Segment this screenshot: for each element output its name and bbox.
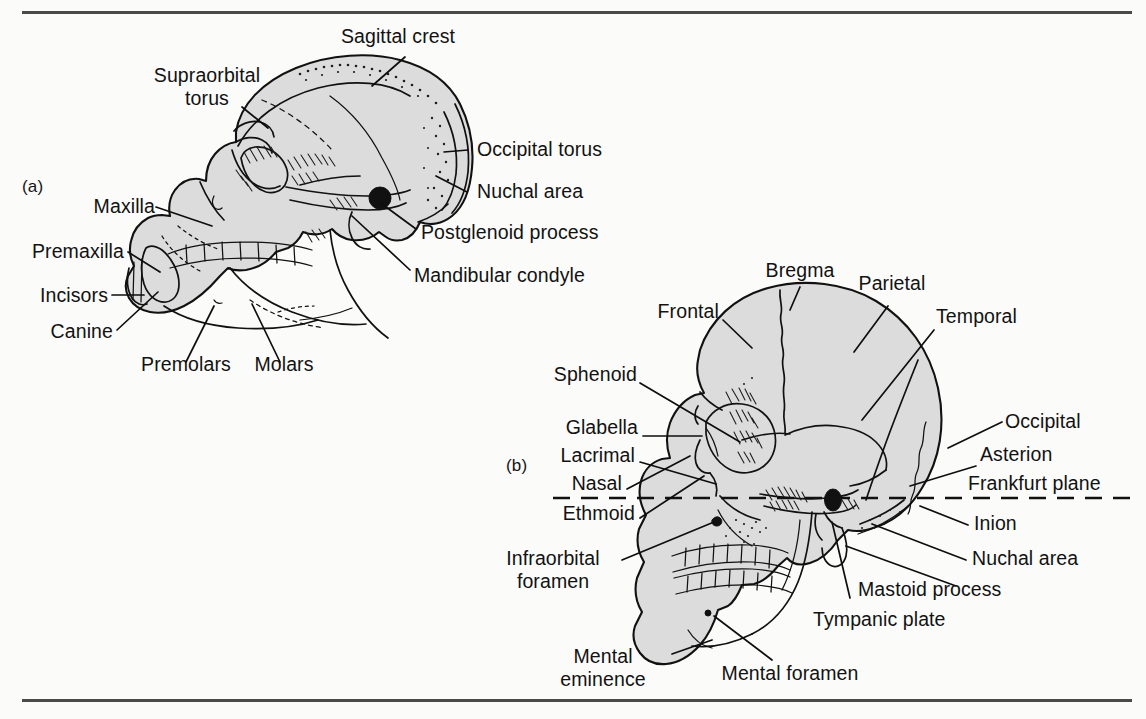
label-occipital: Occipital	[1005, 410, 1081, 433]
label-premolars: Premolars	[141, 353, 231, 376]
label-infraorbital-foramen: Infraorbital foramen	[506, 547, 599, 593]
label-temporal: Temporal	[936, 305, 1017, 328]
label-sagittal-crest: Sagittal crest	[341, 25, 455, 48]
label-glabella: Glabella	[566, 416, 638, 439]
label-mental-eminence: Mental eminence	[560, 645, 645, 691]
label-parietal: Parietal	[859, 272, 926, 295]
label-postglenoid-process: Postglenoid process	[421, 221, 599, 244]
label-premaxilla: Premaxilla	[32, 240, 124, 263]
label-supraorbital-torus: Supraorbital torus	[154, 64, 260, 110]
label-mental-foramen: Mental foramen	[722, 662, 859, 685]
label-asterion: Asterion	[980, 443, 1052, 466]
label-mastoid-process: Mastoid process	[858, 578, 1001, 601]
label-frontal: Frontal	[658, 300, 719, 323]
anatomy-figure: (a) (b) Sagittal crest Supraorbital toru…	[0, 0, 1146, 719]
mental-foramen-mark	[705, 610, 711, 616]
label-ethmoid: Ethmoid	[563, 502, 635, 525]
label-canine: Canine	[51, 320, 113, 343]
leader-nuchal-area-b	[872, 524, 966, 560]
leader-inion	[920, 506, 968, 525]
label-inion: Inion	[974, 512, 1017, 535]
label-lacrimal: Lacrimal	[561, 444, 636, 467]
label-maxilla: Maxilla	[94, 195, 155, 218]
auditory-meatus-mark	[825, 489, 842, 511]
leader-mental-foramen	[714, 616, 772, 660]
label-nasal: Nasal	[572, 472, 622, 495]
postglenoid-process-mark	[369, 187, 391, 209]
label-occipital-torus: Occipital torus	[477, 138, 602, 161]
panel-label-a: (a)	[22, 177, 43, 197]
label-frankfurt-plane: Frankfurt plane	[968, 472, 1101, 495]
label-mandibular-condyle: Mandibular condyle	[414, 264, 585, 287]
label-nuchal-area: Nuchal area	[477, 180, 583, 203]
label-sphenoid: Sphenoid	[554, 363, 637, 386]
label-molars: Molars	[254, 353, 313, 376]
label-nuchal-area-b: Nuchal area	[972, 547, 1078, 570]
label-incisors: Incisors	[40, 284, 108, 307]
panel-label-b: (b)	[506, 456, 527, 476]
label-bregma: Bregma	[766, 259, 835, 282]
label-tympanic-plate: Tympanic plate	[813, 608, 946, 631]
